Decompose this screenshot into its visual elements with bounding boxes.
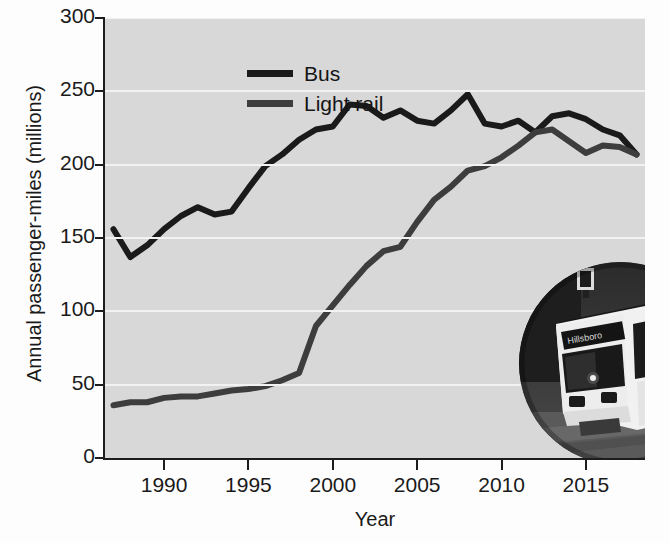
legend-label-light-rail: Light rail (304, 93, 383, 114)
x-tick-label: 2015 (551, 473, 621, 497)
y-tick-label: 200 (35, 151, 95, 175)
legend-swatch-light-rail (247, 100, 293, 107)
x-tick-label: 2010 (467, 473, 537, 497)
y-tick-label: 50 (35, 371, 95, 395)
x-tick-label: 2005 (382, 473, 452, 497)
x-tick-mark (585, 459, 587, 470)
y-tick-label: 100 (35, 297, 95, 321)
legend-swatch-bus (247, 70, 293, 77)
legend-item-bus: Bus (247, 58, 383, 88)
legend-label-bus: Bus (304, 63, 340, 84)
x-tick-mark (163, 459, 165, 470)
x-axis-spine (103, 458, 645, 460)
x-tick-mark (501, 459, 503, 470)
chart-legend: Bus Light rail (247, 58, 383, 118)
y-axis-spine (103, 17, 105, 460)
y-tick-label: 300 (35, 4, 95, 28)
x-tick-mark (247, 459, 249, 470)
y-tick-label: 150 (35, 224, 95, 248)
x-tick-label: 2000 (298, 473, 368, 497)
line-series-bus (113, 94, 636, 257)
y-tick-label: 0 (35, 444, 95, 468)
x-tick-mark (332, 459, 334, 470)
gridline (105, 164, 645, 166)
legend-item-light-rail: Light rail (247, 88, 383, 118)
x-axis-title: Year (105, 508, 645, 531)
gridline (105, 18, 645, 19)
gridline (105, 237, 645, 239)
chart-figure: Annual passenger-miles (millions) 050100… (0, 0, 669, 543)
plot-area: Bus Light rail (105, 18, 645, 458)
x-tick-mark (416, 459, 418, 470)
x-tick-label: 1990 (129, 473, 199, 497)
x-tick-label: 1995 (213, 473, 283, 497)
y-tick-label: 250 (35, 77, 95, 101)
